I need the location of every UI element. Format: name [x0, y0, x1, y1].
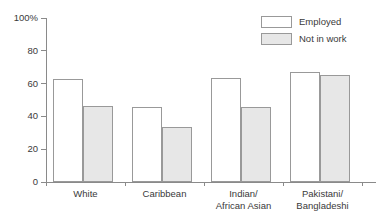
x-axis-label-1: Caribbean [125, 188, 204, 200]
x-axis-label-0: White [46, 188, 125, 200]
legend-label-employed: Employed [299, 16, 341, 28]
y-tick-label: 80 [27, 44, 38, 57]
gray-swatch-icon [261, 33, 292, 45]
bar-employed [53, 79, 83, 182]
bar-not-in-work [83, 106, 113, 182]
y-tick-label: 100% [14, 11, 38, 24]
bar-not-in-work [241, 107, 271, 182]
x-axis-label-2: Indian/ African Asian [204, 188, 283, 212]
bar-employed [211, 78, 241, 182]
bar-employed [132, 107, 162, 182]
x-axis-separator [362, 182, 363, 186]
y-tick-label: 20 [27, 142, 38, 155]
y-tick-label: 60 [27, 77, 38, 90]
bar-not-in-work [320, 75, 350, 182]
legend-label-not-in-work: Not in work [299, 33, 347, 45]
x-axis-label-3: Pakistani/ Bangladeshi [283, 188, 362, 212]
bar-chart: 020406080100% WhiteCaribbeanIndian/ Afri… [0, 0, 380, 220]
x-axis-separator [204, 182, 205, 186]
y-tick-label: 40 [27, 109, 38, 122]
legend-item-employed: Employed [261, 15, 347, 29]
x-axis-separator [46, 182, 47, 186]
x-axis-line [46, 182, 376, 183]
white-swatch-icon [261, 16, 292, 28]
legend-item-not-in-work: Not in work [261, 32, 347, 46]
bar-not-in-work [162, 127, 192, 182]
x-axis-separator [125, 182, 126, 186]
x-axis-separator [283, 182, 284, 186]
y-tick-label: 0 [33, 175, 38, 188]
bar-employed [290, 72, 320, 182]
chart-legend: Employed Not in work [261, 15, 347, 49]
